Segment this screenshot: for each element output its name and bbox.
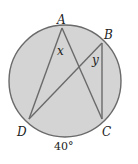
point-label-b: B (103, 28, 113, 42)
point-label-d: D (16, 125, 27, 139)
circle-diagram: A B C D x y 40° (0, 0, 138, 164)
angle-label-x: x (57, 44, 64, 58)
point-label-c: C (102, 125, 111, 139)
arc-label: 40° (54, 140, 74, 153)
point-label-a: A (56, 13, 66, 27)
angle-label-y: y (91, 53, 99, 67)
